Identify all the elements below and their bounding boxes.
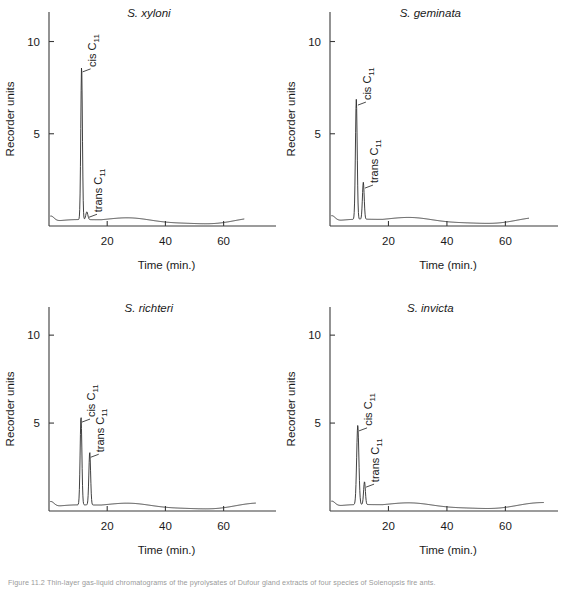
peak-label-subscript: 11 <box>98 168 107 177</box>
peak-label-subscript: 11 <box>374 139 383 148</box>
y-axis-title: Recorder units <box>285 371 297 446</box>
annotation-leader-line <box>83 69 91 72</box>
plot-group: 510204060Time (min.)Recorder unitsS. ric… <box>4 302 276 556</box>
panel-title: S. xyloni <box>127 7 171 19</box>
annotation-leader-line <box>366 484 374 487</box>
figure-caption: Figure 11.2 Thin-layer gas-liquid chroma… <box>8 578 556 590</box>
y-tick-label: 5 <box>34 128 40 140</box>
chromatogram-trace <box>332 99 529 223</box>
x-axis-title: Time (min.) <box>138 259 196 271</box>
chromatogram-trace <box>51 418 256 509</box>
peak-annotation-label: cis C11 <box>85 384 100 417</box>
peak-annotation-label: trans C11 <box>368 139 383 183</box>
y-tick-label: 10 <box>27 329 40 341</box>
peak-label-text: trans C <box>369 447 381 483</box>
annotation-leader-line <box>359 428 367 431</box>
y-axis-title: Recorder units <box>285 81 297 156</box>
x-tick-label: 20 <box>382 235 395 247</box>
panel-title: S. richteri <box>125 302 174 314</box>
y-tick-label: 5 <box>315 128 321 140</box>
peak-annotation-label: cis C11 <box>361 67 376 100</box>
x-axis-title: Time (min.) <box>419 259 477 271</box>
peak-annotation-label: cis C11 <box>86 34 101 67</box>
x-tick-label: 60 <box>499 520 512 532</box>
peak-label-text: trans C <box>92 177 104 213</box>
peak-label-subscript: 11 <box>91 384 100 393</box>
peak-label-text: cis C <box>362 401 374 426</box>
panel-title: S. invicta <box>407 302 454 314</box>
chromatogram-panel-1: 510204060Time (min.)Recorder unitsS. gem… <box>281 0 563 295</box>
x-axis-title: Time (min.) <box>138 544 196 556</box>
panel-grid: 510204060Time (min.)Recorder unitsS. xyl… <box>0 0 563 580</box>
peak-annotation-label: cis C11 <box>362 393 377 426</box>
chromatogram-panel-2: 510204060Time (min.)Recorder unitsS. ric… <box>0 295 281 580</box>
x-tick-label: 40 <box>441 520 454 532</box>
x-tick-label: 20 <box>382 520 395 532</box>
panel-plot-2: 510204060Time (min.)Recorder unitsS. ric… <box>0 295 281 580</box>
panel-title: S. geminata <box>400 7 461 19</box>
chromatogram-panel-0: 510204060Time (min.)Recorder unitsS. xyl… <box>0 0 281 295</box>
plot-group: 510204060Time (min.)Recorder unitsS. gem… <box>285 7 558 271</box>
annotation-leader-line <box>358 102 366 105</box>
annotation-leader-line <box>91 454 99 457</box>
x-tick-label: 40 <box>441 235 454 247</box>
y-tick-label: 5 <box>315 417 321 429</box>
peak-label-text: cis C <box>361 76 373 101</box>
y-tick-label: 10 <box>308 36 321 48</box>
x-tick-label: 60 <box>217 235 230 247</box>
peak-label-subscript: 11 <box>100 408 109 417</box>
annotation-leader-line <box>365 185 373 188</box>
x-tick-label: 60 <box>499 235 512 247</box>
peak-label-text: trans C <box>368 148 380 184</box>
y-tick-label: 10 <box>27 36 40 48</box>
peak-label-subscript: 11 <box>368 393 377 402</box>
panel-plot-3: 510204060Time (min.)Recorder unitsS. inv… <box>281 295 563 580</box>
chromatogram-trace <box>332 426 544 509</box>
peak-label-subscript: 11 <box>367 67 376 76</box>
x-tick-label: 40 <box>159 520 172 532</box>
plot-group: 510204060Time (min.)Recorder unitsS. inv… <box>285 302 558 556</box>
x-axis-title: Time (min.) <box>419 544 477 556</box>
y-tick-label: 5 <box>34 417 40 429</box>
peak-label-text: cis C <box>85 393 97 418</box>
peak-label-text: trans C <box>94 417 106 453</box>
x-tick-label: 20 <box>101 520 114 532</box>
peak-label-subscript: 11 <box>375 438 384 447</box>
peak-label-subscript: 11 <box>92 34 101 43</box>
chromatogram-trace <box>51 68 244 224</box>
peak-annotation-label: trans C11 <box>92 168 107 212</box>
x-tick-label: 60 <box>217 520 230 532</box>
peak-label-text: cis C <box>86 42 98 67</box>
peak-annotation-label: trans C11 <box>369 438 384 482</box>
y-axis-title: Recorder units <box>4 81 16 156</box>
figure-container: 510204060Time (min.)Recorder unitsS. xyl… <box>0 0 563 591</box>
x-tick-label: 20 <box>101 235 114 247</box>
x-tick-label: 40 <box>159 235 172 247</box>
y-tick-label: 10 <box>308 329 321 341</box>
panel-plot-1: 510204060Time (min.)Recorder unitsS. gem… <box>281 0 563 295</box>
y-axis-title: Recorder units <box>4 371 16 446</box>
panel-plot-0: 510204060Time (min.)Recorder unitsS. xyl… <box>0 0 281 295</box>
annotation-leader-line <box>89 214 97 217</box>
plot-group: 510204060Time (min.)Recorder unitsS. xyl… <box>4 7 276 271</box>
chromatogram-panel-3: 510204060Time (min.)Recorder unitsS. inv… <box>281 295 563 580</box>
annotation-leader-line <box>82 419 90 422</box>
